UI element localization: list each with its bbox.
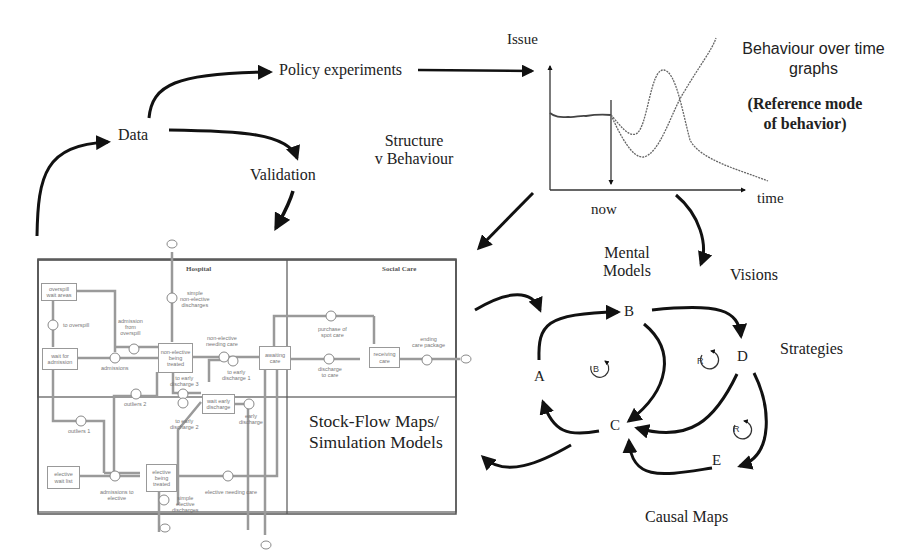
flow-outliers-2: outliers 2 xyxy=(124,401,146,407)
stock-text: discharge xyxy=(207,404,231,410)
label-policy-experiments: Policy experiments xyxy=(279,61,402,79)
flow-admissions-to-elective: admissions toelective xyxy=(100,489,134,501)
reference-history-line xyxy=(550,113,611,117)
flow-text: care package xyxy=(412,342,445,348)
label-visions: Visions xyxy=(730,266,778,284)
graph-title-line-1: Behaviour over time xyxy=(716,40,911,58)
arrow-data-to-validation xyxy=(169,130,297,158)
flow-text: to care xyxy=(318,372,342,378)
flow-text: elective xyxy=(100,495,134,501)
graph-title-line-2: graphs xyxy=(716,60,911,78)
flow-to-overspill: to overspill xyxy=(63,322,89,328)
flow-text: discharges xyxy=(180,302,210,308)
flow-admission-from-overspill: admissionfromoverspill xyxy=(118,318,143,336)
stock-text: care xyxy=(270,358,281,364)
graph-subtitle-line-2: of behavior) xyxy=(725,115,885,133)
causal-arrows xyxy=(475,295,766,474)
stock-flow-caption-line-1: Stock-Flow Maps/ xyxy=(309,411,443,432)
flow-text: needing care xyxy=(206,341,238,347)
flow-text: discharge xyxy=(239,419,263,425)
label-causal-maps: Causal Maps xyxy=(645,508,728,526)
loop-b-label: B xyxy=(593,364,599,374)
stock-text: wait list xyxy=(54,478,72,484)
label-structure-v-behaviour: Structure v Behaviour xyxy=(372,132,456,169)
section-hospital: Hospital xyxy=(186,266,211,274)
flow-non-elective-needing-care: non-electiveneeding care xyxy=(206,335,238,347)
label-validation: Validation xyxy=(250,166,316,184)
graph-subtitle-line-1: (Reference mode xyxy=(725,95,885,113)
stock-elective-wait-list: electivewait list xyxy=(47,466,80,489)
flow-purchase-of-spot-care: purchase ofspot care xyxy=(318,326,347,338)
graph-x-axis-label: time xyxy=(757,190,784,207)
stock-text: treated xyxy=(153,481,170,487)
graph-now-marker-label: now xyxy=(591,201,617,218)
causal-node-b: B xyxy=(624,303,634,320)
flow-admissions: admissions xyxy=(101,365,129,371)
graph-y-axis-label: Issue xyxy=(507,31,538,48)
stock-text: admission xyxy=(48,359,73,365)
stock-text: wait areas xyxy=(46,292,71,298)
arrow-data-to-policy xyxy=(149,72,270,118)
arrow-graph-to-model xyxy=(479,193,533,248)
stock-elective-being-treated: electivebeingtreated xyxy=(146,464,177,492)
causal-node-e: E xyxy=(712,452,721,469)
flow-early-discharge: earlydischarge xyxy=(239,413,263,425)
stock-wait-for-admission: wait foradmission xyxy=(42,348,78,370)
flow-elective-needing-care: elective needing care xyxy=(205,489,257,495)
flow-simple-elective-discharges: simpleelectivedischarges xyxy=(172,495,199,513)
stock-text: care xyxy=(379,358,390,364)
arrow-policy-to-graph xyxy=(418,70,532,71)
stock-flow-caption-line-2: Simulation Models xyxy=(309,432,443,453)
loop-r1-label: R xyxy=(697,356,704,366)
flow-ending-care-package: endingcare package xyxy=(412,336,445,348)
flow-text: discharge 2 xyxy=(170,424,198,430)
label-data: Data xyxy=(118,126,148,144)
label-structure: Structure xyxy=(372,132,456,150)
flow-to-early-discharge-1: to earlydischarge 1 xyxy=(222,369,250,381)
stock-non-elective-being-treated: non-electivebeingtreated xyxy=(158,343,193,373)
causal-node-a: A xyxy=(534,368,545,385)
graph-title: Behaviour over time graphs xyxy=(716,40,911,79)
stock-overspill-wait-areas: overspillwait areas xyxy=(41,283,77,301)
behaviour-graph-axes xyxy=(550,66,745,190)
flow-outliers-1: outliers 1 xyxy=(68,428,90,434)
flow-to-early-discharge-2: to earlydischarge 2 xyxy=(170,418,198,430)
flow-text: discharges xyxy=(172,507,199,513)
flow-text: discharge 3 xyxy=(170,381,198,387)
flow-text: discharge 1 xyxy=(222,375,250,381)
flow-text: spot care xyxy=(318,332,347,338)
stock-wait-early-discharge: wait earlydischarge xyxy=(202,394,235,414)
section-social-care: Social Care xyxy=(382,266,416,274)
flow-simple-non-elective-discharges: simplenon-electivedischarges xyxy=(180,290,210,308)
stock-awaiting-care: awaitingcare xyxy=(259,346,291,370)
graph-subtitle: (Reference mode of behavior) xyxy=(725,95,885,134)
label-models: Models xyxy=(592,262,662,280)
reference-mode-growth xyxy=(611,38,716,157)
flow-discharge-to-care: dischargeto care xyxy=(318,366,342,378)
arrow-validation-to-model xyxy=(276,191,293,228)
arrow-model-to-data xyxy=(37,142,108,236)
label-v-behaviour: v Behaviour xyxy=(372,150,456,168)
flow-to-early-discharge-3: to earlydischarge 3 xyxy=(170,375,198,387)
stock-text: treated xyxy=(167,361,184,367)
stock-flow-caption: Stock-Flow Maps/ Simulation Models xyxy=(309,411,443,453)
label-mental-models: Mental Models xyxy=(592,244,662,281)
label-mental: Mental xyxy=(592,244,662,262)
label-strategies: Strategies xyxy=(780,340,843,358)
causal-node-c: C xyxy=(610,417,620,434)
loop-r2-label: R xyxy=(733,424,740,434)
flow-text: overspill xyxy=(118,330,143,336)
causal-node-d: D xyxy=(737,348,748,365)
stock-receiving-care: receivingcare xyxy=(369,347,400,368)
arrow-graph-to-mental-models xyxy=(676,195,703,264)
